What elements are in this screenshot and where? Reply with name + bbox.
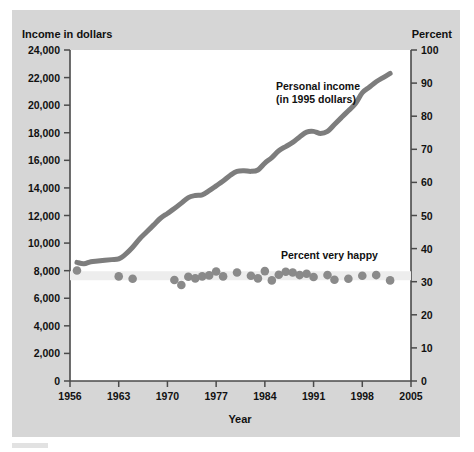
left-axis-ticks: 02,0004,0006,0008,00010,00012,00014,0001… bbox=[28, 44, 70, 387]
left-tick-label: 14,000 bbox=[28, 182, 60, 194]
income-annotation-line2: (in 1995 dollars) bbox=[276, 93, 356, 105]
page-footer-mark bbox=[12, 443, 48, 448]
x-axis-ticks: 19561963197019771984199119982005 bbox=[58, 381, 423, 402]
happy-annotation-label: Percent very happy bbox=[281, 249, 378, 261]
left-tick-label: 4,000 bbox=[34, 320, 60, 332]
percent-very-happy-point bbox=[330, 275, 339, 284]
percent-very-happy-point bbox=[114, 272, 123, 281]
x-tick-label: 1991 bbox=[302, 390, 326, 402]
left-tick-label: 24,000 bbox=[28, 44, 60, 56]
income-happiness-chart: 02,0004,0006,0008,00010,00012,00014,0001… bbox=[0, 0, 474, 452]
percent-very-happy-point bbox=[261, 267, 270, 276]
left-axis-title: Income in dollars bbox=[22, 28, 112, 40]
percent-very-happy-point bbox=[233, 268, 242, 277]
income-annotation-line1: Personal income bbox=[276, 80, 360, 92]
percent-very-happy-point bbox=[372, 271, 381, 280]
x-tick-label: 1984 bbox=[253, 390, 277, 402]
right-tick-label: 80 bbox=[421, 110, 433, 122]
left-tick-label: 6,000 bbox=[34, 292, 60, 304]
right-tick-label: 40 bbox=[421, 243, 433, 255]
figure-container: 02,0004,0006,0008,00010,00012,00014,0001… bbox=[0, 0, 474, 452]
left-tick-label: 16,000 bbox=[28, 154, 60, 166]
x-tick-label: 2005 bbox=[399, 390, 423, 402]
chart-canvas: 02,0004,0006,0008,00010,00012,00014,0001… bbox=[0, 0, 474, 452]
x-tick-label: 1963 bbox=[107, 390, 131, 402]
x-tick-label: 1977 bbox=[204, 390, 228, 402]
right-tick-label: 50 bbox=[421, 210, 433, 222]
percent-very-happy-point bbox=[219, 272, 228, 281]
x-axis-title: Year bbox=[228, 413, 252, 425]
percent-very-happy-point bbox=[212, 267, 221, 276]
x-tick-label: 1970 bbox=[156, 390, 180, 402]
left-tick-label: 18,000 bbox=[28, 127, 60, 139]
left-tick-label: 2,000 bbox=[34, 347, 60, 359]
right-tick-label: 60 bbox=[421, 176, 433, 188]
left-tick-label: 10,000 bbox=[28, 237, 60, 249]
left-tick-label: 22,000 bbox=[28, 72, 60, 84]
percent-very-happy-point bbox=[309, 273, 318, 282]
right-tick-label: 100 bbox=[421, 44, 439, 56]
left-tick-label: 8,000 bbox=[34, 265, 60, 277]
percent-very-happy-point bbox=[177, 281, 186, 290]
right-tick-label: 30 bbox=[421, 276, 433, 288]
left-tick-label: 20,000 bbox=[28, 99, 60, 111]
percent-very-happy-point bbox=[254, 274, 263, 283]
percent-very-happy-point bbox=[73, 266, 82, 275]
right-axis-ticks: 0102030405060708090100 bbox=[411, 44, 439, 387]
right-axis-title: Percent bbox=[412, 28, 453, 40]
right-tick-label: 70 bbox=[421, 143, 433, 155]
left-tick-label: 0 bbox=[54, 375, 60, 387]
percent-very-happy-point bbox=[358, 271, 367, 280]
right-tick-label: 10 bbox=[421, 342, 433, 354]
x-tick-label: 1956 bbox=[58, 390, 82, 402]
left-tick-label: 12,000 bbox=[28, 210, 60, 222]
right-tick-label: 90 bbox=[421, 77, 433, 89]
percent-very-happy-point bbox=[386, 276, 395, 285]
percent-very-happy-point bbox=[128, 274, 137, 283]
right-tick-label: 0 bbox=[421, 375, 427, 387]
x-tick-label: 1998 bbox=[351, 390, 375, 402]
percent-very-happy-point bbox=[344, 274, 353, 283]
right-tick-label: 20 bbox=[421, 309, 433, 321]
percent-very-happy-point bbox=[170, 276, 179, 285]
percent-very-happy-point bbox=[268, 276, 277, 285]
